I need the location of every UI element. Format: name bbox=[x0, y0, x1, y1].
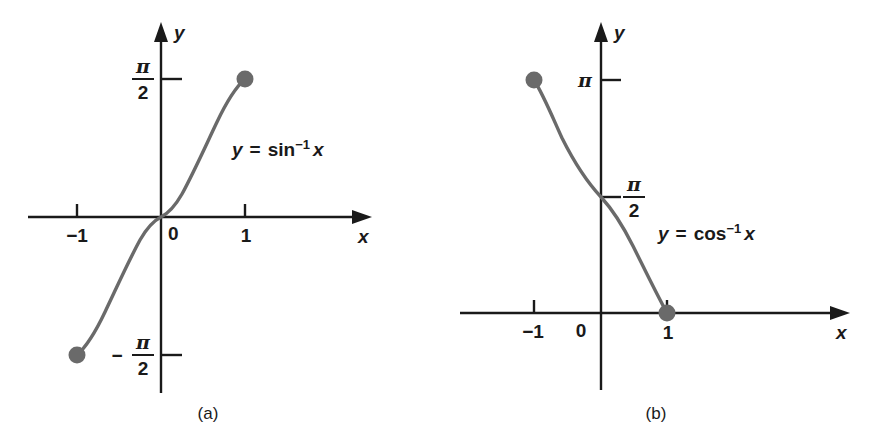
origin-label-a: 0 bbox=[168, 223, 179, 244]
y-ticklabel-pi-b: π bbox=[577, 69, 593, 91]
y-axis-label-a: y bbox=[173, 22, 186, 43]
equation-b-arg: x bbox=[743, 223, 756, 244]
y-axis-a bbox=[154, 22, 168, 393]
equation-a-lhs: y bbox=[231, 139, 244, 160]
pi-denominator-a-top: 2 bbox=[138, 82, 149, 103]
panel-b-arccosine: y x 0 −1 1 π π 2 y=cos−1x (b) bbox=[438, 0, 876, 448]
equation-a-equals: = bbox=[250, 139, 261, 160]
y-ticklabel-neg-pi-over-2-a: − π 2 bbox=[111, 331, 154, 379]
svg-text:y=cos−1x: y=cos−1x bbox=[657, 221, 756, 244]
y-axis-label-b: y bbox=[613, 22, 626, 43]
minus-sign-a-bottom: − bbox=[111, 345, 122, 366]
y-axis-arrowhead-b bbox=[594, 22, 608, 42]
figure-inverse-trig-graphs: y x 0 −1 1 π 2 − π 2 bbox=[0, 0, 876, 448]
pi-numerator-a-top: π bbox=[135, 55, 151, 77]
endpoint-upper-left-b bbox=[526, 72, 543, 89]
x-ticklabel-1-a: 1 bbox=[241, 225, 252, 246]
x-axis-arrowhead-b bbox=[830, 306, 850, 320]
svg-text:y=sin−1x: y=sin−1x bbox=[231, 137, 325, 160]
y-ticklabel-pi-over-2-b: π 2 bbox=[623, 173, 645, 221]
x-ticklabel-minus1-b: −1 bbox=[522, 321, 544, 342]
x-axis-arrowhead-a bbox=[352, 210, 372, 224]
equation-a-arg: x bbox=[312, 139, 325, 160]
x-axis-b bbox=[460, 306, 850, 320]
caption-b: (b) bbox=[646, 404, 667, 423]
x-axis-label-b: x bbox=[835, 322, 848, 343]
equation-label-b: y=cos−1x bbox=[657, 221, 756, 244]
equation-a-func: sin bbox=[268, 139, 295, 160]
y-ticklabel-pi-over-2-a: π 2 bbox=[132, 55, 154, 103]
y-axis-b bbox=[594, 22, 608, 390]
equation-label-a: y=sin−1x bbox=[231, 137, 325, 160]
pi-denominator-b: 2 bbox=[629, 200, 640, 221]
equation-b-lhs: y bbox=[657, 223, 670, 244]
endpoint-lower-right-b bbox=[659, 305, 676, 322]
y-axis-arrowhead-a bbox=[154, 22, 168, 42]
panel-a-arcsine: y x 0 −1 1 π 2 − π 2 bbox=[0, 0, 438, 448]
caption-a: (a) bbox=[198, 404, 219, 423]
x-axis-label-a: x bbox=[357, 226, 370, 247]
bottom-cropped-text-strip bbox=[0, 434, 876, 448]
equation-b-exponent: −1 bbox=[726, 221, 741, 236]
origin-label-b: 0 bbox=[576, 320, 587, 341]
pi-numerator-a-bottom: π bbox=[135, 331, 151, 353]
x-axis-a bbox=[28, 210, 372, 224]
equation-a-exponent: −1 bbox=[295, 137, 310, 152]
endpoint-lower-left-a bbox=[69, 347, 86, 364]
equation-b-func: cos bbox=[694, 223, 727, 244]
endpoint-upper-right-a bbox=[237, 71, 254, 88]
x-ticklabel-minus1-a: −1 bbox=[66, 225, 88, 246]
x-ticklabel-1-b: 1 bbox=[663, 322, 674, 343]
pi-denominator-a-bottom: 2 bbox=[138, 358, 149, 379]
equation-b-equals: = bbox=[676, 223, 687, 244]
pi-numerator-b: π bbox=[626, 173, 642, 195]
